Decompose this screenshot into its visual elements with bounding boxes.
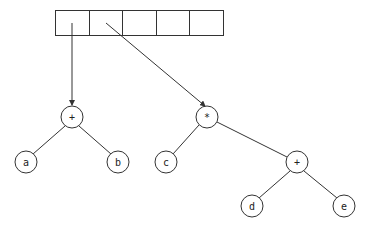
node-label: c <box>163 157 169 168</box>
array-cell-2 <box>123 11 157 36</box>
array-cell-3 <box>157 11 190 36</box>
node-label: + <box>69 112 75 123</box>
node-label: d <box>249 201 255 212</box>
expression-tree-diagram: + a b * c + d e <box>0 0 369 233</box>
node-label: b <box>115 157 121 168</box>
tree-node-root1: + <box>61 106 83 128</box>
tree-node-root2: * <box>196 106 218 128</box>
tree-node-b: b <box>107 151 129 173</box>
tree-node-d: d <box>241 195 263 217</box>
edge-root1-a <box>33 126 65 154</box>
node-label: e <box>341 201 347 212</box>
tree-node-plus2: + <box>286 151 308 173</box>
node-label: a <box>23 157 29 168</box>
tree-node-e: e <box>333 195 355 217</box>
node-label: * <box>204 112 210 123</box>
array-cell-4 <box>190 11 224 36</box>
edge-root1-b <box>79 126 111 154</box>
tree-node-a: a <box>15 151 37 173</box>
pointer-array <box>56 11 224 36</box>
tree-node-c: c <box>155 151 177 173</box>
node-label: + <box>294 157 300 168</box>
edge-plus2-e <box>304 171 337 198</box>
edge-root2-plus2 <box>217 122 287 157</box>
edge-plus2-d <box>259 171 290 198</box>
edge-root2-c <box>173 125 199 154</box>
